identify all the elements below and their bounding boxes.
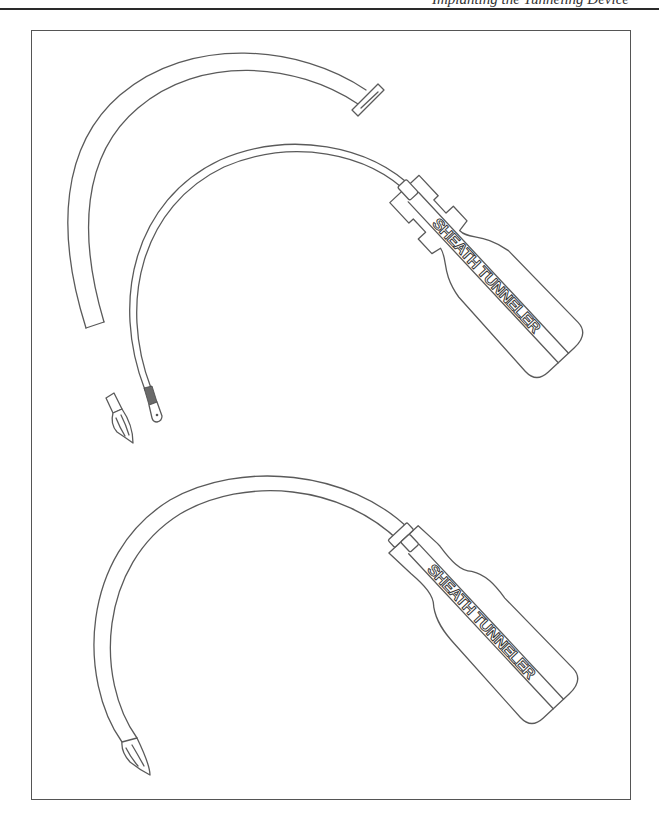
tunneler-rod — [130, 144, 415, 422]
sheath-tube — [68, 53, 384, 328]
assembled-sheath — [94, 476, 410, 742]
assembled-handle: SHEATH TUNNELER — [370, 507, 584, 729]
bullet-tip — [106, 393, 133, 443]
assembled-bullet-tip — [122, 738, 150, 775]
assembled-tunneler: SHEATH TUNNELER — [94, 476, 584, 775]
tunneler-handle: SHEATH TUNNELER — [374, 160, 589, 383]
sheath-tunneler-illustration: SHEATH TUNNELER SHEATH TUNNELER — [0, 0, 659, 826]
sheath-hub — [352, 84, 384, 116]
rod-tip — [149, 402, 162, 422]
disassembled-tunneler: SHEATH TUNNELER — [68, 53, 589, 443]
